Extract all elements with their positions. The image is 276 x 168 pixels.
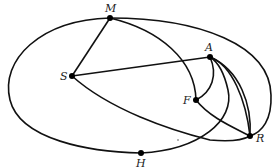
- label-A: A: [205, 42, 213, 53]
- edge-S-R: [72, 76, 250, 141]
- edge-M-F: [110, 18, 196, 100]
- label-S: S: [60, 71, 68, 82]
- label-F: F: [183, 95, 191, 106]
- edge-M-H-outer: [8, 18, 141, 153]
- node-H: [138, 150, 144, 156]
- graph-diagram: M S A F R H: [0, 0, 276, 168]
- label-H: H: [136, 158, 146, 168]
- edge-A-F: [196, 57, 214, 100]
- node-R: [247, 133, 253, 139]
- node-M: [107, 15, 113, 21]
- stray-dot: [177, 139, 179, 141]
- graph-canvas: [0, 0, 276, 168]
- node-S: [69, 73, 75, 79]
- label-M: M: [105, 3, 116, 14]
- node-A: [207, 54, 213, 60]
- edge-M-S: [72, 18, 110, 76]
- node-F: [193, 97, 199, 103]
- label-R: R: [256, 133, 264, 144]
- edge-A-R-1: [210, 57, 250, 136]
